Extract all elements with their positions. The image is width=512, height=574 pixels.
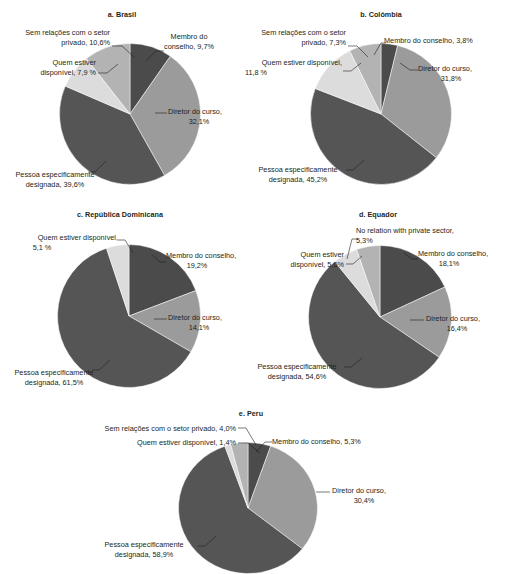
chart-a-label-quem-estiver: Quem estiver disponível, 7,9 %: [4, 58, 96, 79]
chart-c-title: c. República Dominicana: [40, 210, 200, 219]
chart-c-label-membro: Membro do conselho, 19,2%: [166, 251, 258, 272]
chart-a-leader-quem: [98, 62, 120, 76]
chart-b-leader-pessoa: [346, 158, 366, 172]
chart-d-label-diretor: Diretor do curso, 16,4%: [426, 314, 512, 335]
chart-a-leader-diretor: [155, 110, 169, 116]
chart-a-title: a. Brasil: [57, 10, 187, 19]
chart-e-leader-membro: [256, 440, 274, 454]
chart-a-label-sem-relacoes: Sem relações com o setor privado, 10,6%: [2, 28, 110, 49]
chart-d-label-no-relation: No relation with private sector, 5,3%: [356, 226, 512, 247]
chart-b-label-pessoa: Pessoa especificamente designada, 45,2%: [242, 165, 354, 186]
chart-d-leader-membro: [404, 252, 420, 264]
chart-d-equador: d. Equador No relation with private sect…: [256, 200, 512, 400]
chart-b-leader-diretor: [400, 62, 420, 74]
chart-b-leader-quem: [343, 61, 363, 74]
chart-d-label-membro: Membro do conselho, 18,1%: [418, 249, 512, 270]
chart-e-label-sem-relacoes: Sem relações com o setor privado, 4,0%: [20, 424, 236, 434]
chart-b-label-quem-estiver: Quem estiver disponível, 11,8 %: [214, 58, 342, 79]
chart-d-label-pessoa: Pessoa especificamente designada, 54,6%: [240, 362, 354, 383]
chart-c-label-diretor: Diretor do curso, 14,1%: [168, 313, 256, 334]
chart-a-brasil: a. Brasil Sem relações com o setor priva…: [0, 0, 256, 200]
chart-d-leader-pessoa: [344, 356, 364, 370]
chart-c-leader-pessoa: [92, 358, 112, 372]
chart-d-leader-quem: [346, 254, 364, 268]
chart-c-leader-quem: [118, 238, 136, 256]
chart-b-label-membro: Membro do conselho, 3,8%: [384, 36, 512, 46]
chart-e-label-pessoa: Pessoa especificamente designada, 58,9%: [88, 540, 200, 561]
chart-a-leader-pessoa: [88, 158, 108, 174]
chart-e-peru: e. Peru Sem relações com o setor privado…: [0, 400, 512, 574]
chart-a-leader-membro: [146, 50, 166, 64]
chart-c-republica-dominicana: c. República Dominicana Quem estiver dis…: [0, 200, 256, 400]
chart-d-leader-diretor: [410, 317, 426, 323]
chart-b-label-sem-relacoes: Sem relações com o setor privado, 7,3%: [238, 28, 346, 49]
chart-e-title: e. Peru: [186, 409, 316, 418]
chart-b-leader-sem: [348, 44, 370, 60]
chart-b-leader-membro: [374, 42, 388, 58]
chart-e-leader-pessoa: [198, 534, 218, 548]
chart-d-title: d. Equador: [313, 210, 443, 219]
chart-e-label-membro: Membro do conselho, 5,3%: [272, 437, 432, 447]
pie-chart-figure-page: { "palette": { "membro": "#4b4b4b", "dir…: [0, 0, 512, 574]
chart-c-leader-membro: [152, 254, 168, 266]
chart-e-leader-diretor: [316, 489, 332, 495]
chart-e-label-diretor: Diretor do curso, 30,4%: [332, 486, 422, 507]
chart-b-colombia: b. Colômbia Sem relações com o setor pri…: [256, 0, 512, 200]
chart-a-label-diretor: Diretor do curso, 32,1%: [168, 107, 252, 128]
chart-a-leader-sem: [112, 44, 136, 60]
chart-b-title: b. Colômbia: [316, 10, 446, 19]
chart-d-label-quem-estiver: Quem estiver disponível, 5,6%: [246, 250, 344, 271]
chart-c-label-quem-estiver: Quem estiver disponível, 5,1 %: [0, 233, 118, 254]
chart-b-label-diretor: Diretor do curso, 31,8%: [418, 64, 508, 85]
chart-e-label-quem-estiver: Quem estiver disponível, 1,4%: [36, 438, 236, 448]
chart-c-leader-diretor: [154, 316, 169, 322]
